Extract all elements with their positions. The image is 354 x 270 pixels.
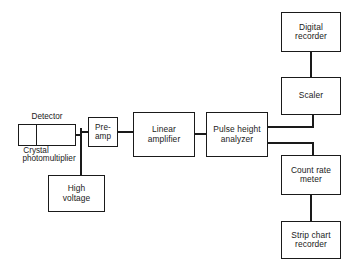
preamp-block[interactable]: Pre- amp <box>88 117 118 147</box>
wire-analyzer-to-scaler <box>268 115 313 127</box>
count-rate-meter-block[interactable]: Count rate meter <box>281 155 341 195</box>
wire-analyzer-to-count-rate-meter <box>268 143 313 155</box>
strip-chart-recorder-label: Strip chart recorder <box>291 231 330 250</box>
digital-recorder-block[interactable]: Digital recorder <box>281 12 341 52</box>
pulse-height-analyzer-block[interactable]: Pulse height analyzer <box>206 112 268 157</box>
linear-amplifier-block[interactable]: Linear amplifier <box>133 112 195 157</box>
count-rate-meter-label: Count rate meter <box>291 166 331 185</box>
detector-internal-divider <box>36 124 37 146</box>
photomultiplier-label: photomultiplier <box>6 154 92 163</box>
detector-caption: Detector <box>18 112 76 121</box>
linear-amplifier-label: Linear amplifier <box>148 125 181 144</box>
scaler-label: Scaler <box>299 91 323 100</box>
preamp-label: Pre- amp <box>95 123 111 141</box>
strip-chart-recorder-block[interactable]: Strip chart recorder <box>281 221 341 259</box>
high-voltage-label: High voltage <box>63 184 91 203</box>
detector-block[interactable] <box>18 124 76 146</box>
high-voltage-block[interactable]: High voltage <box>48 175 105 212</box>
digital-recorder-label: Digital recorder <box>295 23 327 42</box>
block-diagram-canvas: Detector Crystal photomultiplier Pre- am… <box>0 0 354 270</box>
scaler-block[interactable]: Scaler <box>281 77 341 115</box>
pulse-height-analyzer-label: Pulse height analyzer <box>213 125 260 144</box>
